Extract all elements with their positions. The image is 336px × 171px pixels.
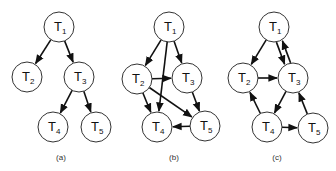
node-a-t4: T4 [38, 112, 68, 142]
node-c-t1: T1 [259, 12, 289, 42]
node-c-t5: T5 [298, 113, 328, 143]
caption-a: (a) [56, 153, 66, 162]
node-c-t3: T3 [278, 63, 308, 93]
node-c-t2: T2 [228, 63, 258, 93]
graph-c-nodes: T1T2T3T4T5 [228, 12, 328, 143]
edge-c-t3-to-t4 [275, 91, 287, 113]
node-b-t5: T5 [190, 111, 220, 141]
captions-layer: (a)(b)(c) [56, 153, 282, 162]
graph-b-nodes: T1T2T3T4T5 [122, 12, 220, 142]
edge-a-t1-to-t3 [65, 41, 74, 62]
node-a-t1: T1 [44, 12, 74, 42]
edge-a-t1-to-t2 [36, 40, 51, 64]
edge-c-t4-to-t2 [250, 92, 260, 113]
task-graph-diagram: T1T2T3T4T5T1T2T3T4T5T1T2T3T4T5 (a)(b)(c) [0, 0, 336, 171]
edge-b-t2-to-t4 [143, 93, 151, 112]
edge-a-t3-to-t4 [60, 90, 72, 113]
node-a-t2: T2 [12, 62, 42, 92]
edge-b-t1-to-t2 [145, 40, 161, 66]
node-b-t2: T2 [122, 64, 152, 94]
edge-b-t1-to-t3 [174, 41, 182, 63]
caption-b: (b) [169, 153, 179, 162]
node-b-t1: T1 [154, 12, 184, 42]
node-b-t4: T4 [142, 112, 172, 142]
node-a-t3: T3 [64, 62, 94, 92]
edge-b-t1-to-t4 [159, 42, 167, 111]
edge-a-t3-to-t5 [84, 91, 91, 112]
caption-c: (c) [272, 153, 282, 162]
node-b-t3: T3 [172, 63, 202, 93]
node-c-t4: T4 [252, 112, 282, 142]
nodes-layer: T1T2T3T4T5T1T2T3T4T5T1T2T3T4T5 [12, 12, 328, 143]
edge-c-t5-to-t3 [299, 93, 308, 114]
edge-c-t1-to-t2 [251, 40, 266, 65]
edge-b-t3-to-t5 [192, 92, 199, 111]
graph-a-nodes: T1T2T3T4T5 [12, 12, 111, 142]
node-a-t5: T5 [81, 112, 111, 142]
